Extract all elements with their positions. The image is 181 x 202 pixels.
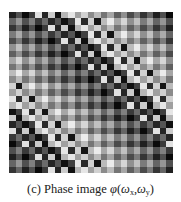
caption-omega-y: ω [137, 182, 146, 196]
phase-cell [166, 167, 173, 173]
figure-caption: (c) Phase image φ(ωx,ωy) [0, 182, 181, 197]
caption-text: Phase image [44, 182, 107, 196]
caption-omega-x: ω [121, 182, 130, 196]
figure: (c) Phase image φ(ωx,ωy) [0, 0, 181, 202]
caption-paren-close: ) [150, 182, 154, 196]
phase-image [9, 12, 173, 173]
caption-label: (c) [27, 182, 41, 196]
caption-symbol: φ [110, 182, 117, 196]
